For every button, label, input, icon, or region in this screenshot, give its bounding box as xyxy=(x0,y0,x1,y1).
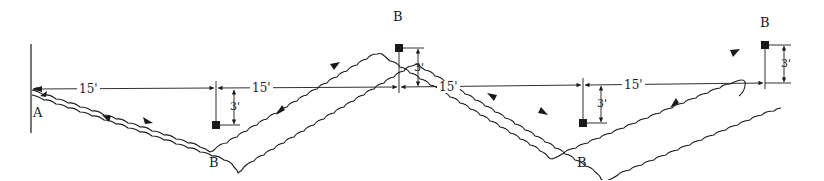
arrow-downright-icon xyxy=(538,107,548,115)
vertical-dimension-arrows xyxy=(234,46,784,124)
path-line-return xyxy=(32,64,781,180)
diagram-drawing xyxy=(0,0,824,180)
arrow-upright-icon xyxy=(330,62,340,70)
arrow-upright-icon xyxy=(730,49,740,57)
arrow-right-icon xyxy=(143,117,153,124)
dimension-label-3ft-1: 3' xyxy=(230,101,240,112)
dimension-label-3ft-3: 3' xyxy=(597,98,607,109)
point-label-b4: B xyxy=(760,16,770,29)
dimension-label-3ft-4: 3' xyxy=(781,58,791,69)
travel-path xyxy=(32,54,781,181)
dimension-label-15ft-4: 15' xyxy=(622,79,645,91)
stake-markers xyxy=(212,41,769,129)
zigzag-layout-diagram: A B B B B 15' 15' 15' 15' 3' 3' 3' 3' xyxy=(0,0,824,180)
arrow-downleft-icon xyxy=(276,105,285,115)
dimension-label-15ft-3: 15' xyxy=(437,81,460,93)
arrow-downleft-icon xyxy=(40,91,47,97)
arrow-downleft-icon xyxy=(670,98,679,108)
square-marker xyxy=(212,121,220,129)
arrow-upleft-icon xyxy=(487,93,497,101)
point-label-b3: B xyxy=(577,156,587,169)
dimension-label-3ft-2: 3' xyxy=(414,62,424,73)
dimension-label-15ft-2: 15' xyxy=(250,82,273,94)
square-marker xyxy=(579,119,587,127)
horizontal-dimension-lines xyxy=(33,83,791,89)
dimension-label-15ft-1: 15' xyxy=(77,83,100,95)
point-label-a: A xyxy=(33,106,42,119)
point-label-b2: B xyxy=(393,10,403,23)
point-label-b1: B xyxy=(209,156,219,169)
square-marker xyxy=(761,41,769,49)
path-line-outbound xyxy=(32,54,745,160)
vertical-offset-lines xyxy=(216,45,791,125)
square-marker xyxy=(395,44,403,52)
